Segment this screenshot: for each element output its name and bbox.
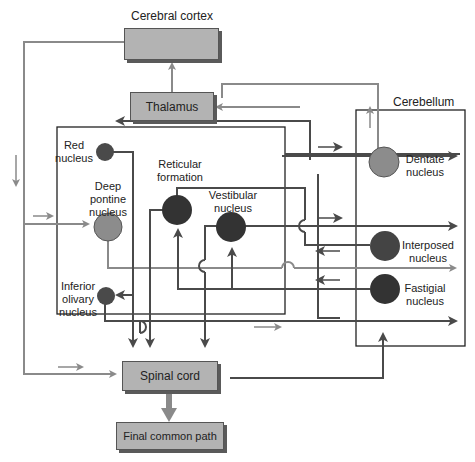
cerebellum-label: Cerebellum	[393, 95, 454, 109]
reticular-formation-node	[162, 195, 192, 225]
dentate-node	[369, 147, 399, 177]
motor-control-diagram	[0, 0, 475, 462]
cerebral-cortex-box	[124, 28, 219, 60]
vestibular-nucleus-node	[216, 212, 246, 242]
red-nucleus-node	[96, 143, 114, 161]
cerebral-cortex-label: Cerebral cortex	[131, 9, 213, 23]
fastigial-label: Fastigial nucleus	[400, 282, 450, 308]
interposed-node	[370, 231, 400, 261]
interposed-label: Interposed nucleus	[398, 239, 458, 265]
final-common-path-box: Final common path	[116, 422, 224, 450]
reticular-formation-label: Reticular formation	[152, 158, 208, 184]
fastigial-node	[370, 274, 400, 304]
dentate-label: Dentate nucleus	[400, 153, 450, 179]
deep-pontine-label: Deep pontine nucleus	[83, 180, 133, 219]
spinal-to-final-arrow	[161, 390, 177, 422]
inferior-olivary-node	[97, 287, 115, 305]
spinal-cord-box: Spinal cord	[122, 361, 218, 391]
red-nucleus-label: Red nucleus	[54, 139, 94, 165]
inferior-olivary-label: Inferior olivary nucleus	[58, 280, 98, 319]
thalamus-box: Thalamus	[130, 92, 214, 121]
cerebellum-box	[356, 110, 465, 346]
vestibular-nucleus-label: Vestibular nucleus	[205, 189, 261, 215]
